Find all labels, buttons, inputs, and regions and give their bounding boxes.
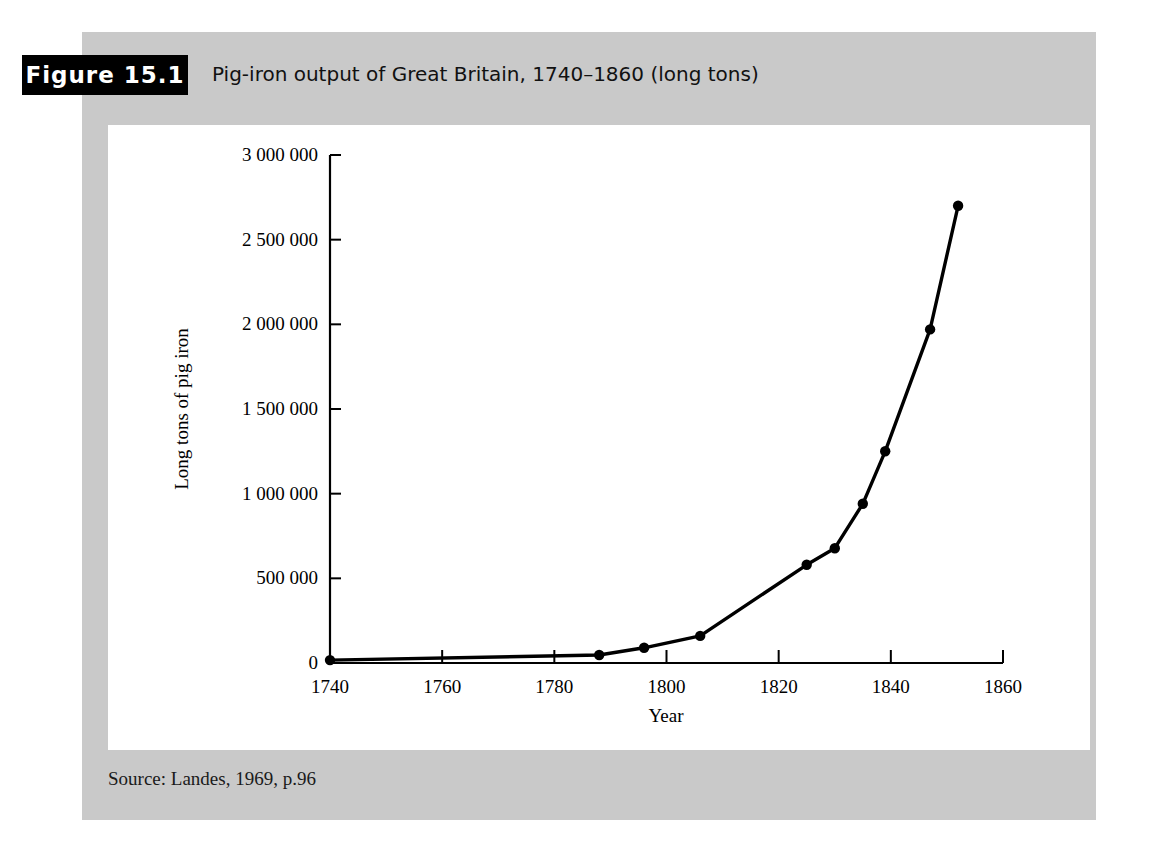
x-tick-label: 1860 bbox=[984, 676, 1022, 697]
chart-plot-area: 0500 0001 000 0001 500 0002 000 0002 500… bbox=[108, 125, 1090, 750]
y-axis-tick-labels: 0500 0001 000 0001 500 0002 000 0002 500… bbox=[242, 144, 318, 673]
data-series-line bbox=[330, 206, 958, 660]
y-tick-label: 500 000 bbox=[256, 567, 318, 588]
y-tick-label: 2 500 000 bbox=[242, 229, 318, 250]
figure-number-badge: Figure 15.1 bbox=[22, 55, 188, 95]
data-point bbox=[802, 560, 812, 570]
data-point bbox=[594, 650, 604, 660]
data-point bbox=[639, 643, 649, 653]
data-point bbox=[925, 324, 935, 334]
y-tick-label: 3 000 000 bbox=[242, 144, 318, 165]
x-tick-label: 1800 bbox=[648, 676, 686, 697]
data-point bbox=[325, 655, 335, 665]
y-axis-ticks bbox=[330, 155, 341, 578]
x-axis-title: Year bbox=[648, 705, 684, 726]
y-tick-label: 2 000 000 bbox=[242, 313, 318, 334]
data-point bbox=[695, 631, 705, 641]
data-point bbox=[953, 201, 963, 211]
source-note: Source: Landes, 1969, p.96 bbox=[108, 768, 316, 790]
x-axis-tick-labels: 1740176017801800182018401860 bbox=[311, 676, 1022, 697]
data-series-points bbox=[325, 201, 964, 666]
data-point bbox=[880, 446, 890, 456]
figure-caption: Pig-iron output of Great Britain, 1740–1… bbox=[212, 62, 759, 86]
x-tick-label: 1760 bbox=[423, 676, 461, 697]
data-point bbox=[858, 499, 868, 509]
y-tick-label: 1 500 000 bbox=[242, 398, 318, 419]
y-tick-label: 0 bbox=[309, 652, 319, 673]
y-tick-label: 1 000 000 bbox=[242, 483, 318, 504]
data-point bbox=[830, 543, 840, 553]
x-tick-label: 1820 bbox=[760, 676, 798, 697]
x-tick-label: 1840 bbox=[872, 676, 910, 697]
y-axis-title: Long tons of pig iron bbox=[171, 328, 192, 490]
x-tick-label: 1740 bbox=[311, 676, 349, 697]
x-tick-label: 1780 bbox=[535, 676, 573, 697]
line-chart: 0500 0001 000 0001 500 0002 000 0002 500… bbox=[108, 125, 1090, 750]
